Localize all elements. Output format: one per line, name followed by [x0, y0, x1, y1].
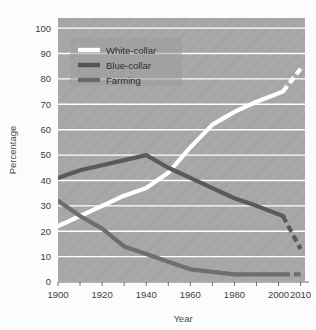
x-tick-label: 1920 [92, 289, 113, 300]
legend-label: Farming [106, 75, 141, 86]
x-axis-title: Year [173, 313, 192, 324]
legend-label: Blue-collar [106, 60, 151, 71]
y-tick-label: 80 [40, 73, 51, 84]
occupation-line-chart: 1900192019401960198020002010 01020304050… [0, 0, 316, 330]
y-axis-title: Percentage [7, 126, 18, 175]
y-tick-label: 20 [40, 226, 51, 237]
legend-label: White-collar [106, 45, 156, 56]
x-tick-label: 2000 [268, 289, 289, 300]
y-tick-label: 0 [46, 276, 51, 287]
x-tick-label: 1940 [136, 289, 157, 300]
y-tick-label: 100 [35, 23, 51, 34]
y-tick-label: 30 [40, 200, 51, 211]
chart-legend: White-collarBlue-collarFarming [70, 38, 182, 86]
x-tick-label: 1980 [224, 289, 245, 300]
y-tick-label: 60 [40, 124, 51, 135]
y-tick-label: 90 [40, 48, 51, 59]
x-tick-label: 1960 [180, 289, 201, 300]
x-tick-label: 2010 [290, 289, 311, 300]
y-tick-label: 50 [40, 149, 51, 160]
y-tick-label: 10 [40, 251, 51, 262]
y-tick-label: 70 [40, 99, 51, 110]
x-tick-label: 1900 [47, 289, 68, 300]
y-tick-label: 40 [40, 175, 51, 186]
figure-container: 1900192019401960198020002010 01020304050… [0, 0, 316, 330]
